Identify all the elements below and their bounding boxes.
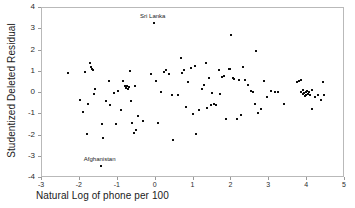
y-axis-tick-label: -3 [21,151,35,160]
data-point [93,93,95,95]
data-point [82,111,84,113]
data-point [198,109,200,111]
y-axis-tick-mark [38,28,41,29]
y-axis-tick-label: -2 [21,130,35,139]
data-point [240,114,242,116]
data-point [187,81,189,83]
y-axis-tick-label: -4 [21,172,35,181]
data-point [133,132,135,134]
data-point [201,88,203,90]
data-point [109,104,111,106]
x-axis-tick-mark [306,177,307,180]
x-axis-tick-label: 3 [261,181,275,188]
y-axis-tick-mark [38,92,41,93]
data-point [129,70,131,72]
data-point [89,62,91,64]
data-point [122,80,124,82]
y-axis-label-text: Studentized Deleted Residual [6,23,17,158]
data-point [165,69,167,71]
y-axis-tick-label: 4 [21,2,35,11]
data-point [180,57,182,59]
data-point [86,133,88,135]
data-point [79,99,81,101]
data-point [219,93,221,95]
x-axis-tick-label: -3 [34,181,48,188]
data-point [137,115,139,117]
y-axis-tick-label: 0 [21,87,35,96]
data-point [172,139,174,141]
data-point [225,118,227,120]
data-point [244,79,246,81]
data-point [157,122,159,124]
data-point [120,109,122,111]
data-point [218,69,220,71]
data-point [277,91,279,93]
data-point [168,73,170,75]
data-point [270,90,272,92]
x-axis-tick-mark [41,177,42,180]
data-point [115,123,117,125]
data-point [323,94,325,96]
data-point [128,86,130,88]
y-axis-tick-mark [38,50,41,51]
data-point [320,99,322,101]
x-axis-tick-label: -2 [72,181,86,188]
data-point [311,89,313,91]
data-point [130,100,132,102]
y-axis-tick-mark [38,71,41,72]
data-point [208,77,210,79]
data-point [266,96,268,98]
x-axis-tick-label: -1 [110,181,124,188]
y-axis-tick-label: 3 [21,23,35,32]
data-point [177,94,179,96]
data-point [254,103,256,105]
data-point [160,91,162,93]
y-axis-tick-mark [38,156,41,157]
x-axis-tick-mark [155,177,156,180]
point-annotation: Sri Lanka [140,13,165,19]
data-point [242,66,244,68]
data-point [142,120,144,122]
data-point [223,75,225,77]
data-point [311,108,313,110]
x-axis-tick-label: 2 [223,181,237,188]
x-axis-label: Natural Log of phone per 100 [36,190,169,201]
data-point [153,22,155,24]
data-point [263,80,265,82]
data-point [84,71,86,73]
data-point [150,73,152,75]
data-point [203,84,205,86]
x-axis-tick-mark [117,177,118,180]
scatter-plot-figure: Studentized Deleted Residual Natural Log… [0,0,355,208]
data-point [117,90,119,92]
data-point [134,85,136,87]
x-axis-tick-label: 0 [148,181,162,188]
data-point [131,122,133,124]
point-annotation: Afghanistan [84,156,116,162]
data-point [100,165,102,167]
x-axis-tick-label: 4 [299,181,313,188]
y-axis-tick-mark [38,113,41,114]
data-point [108,80,110,82]
data-point [163,71,165,73]
data-point [127,88,129,90]
data-point [67,72,69,74]
data-point [260,108,262,110]
x-axis-tick-mark [193,177,194,180]
x-axis-tick-mark [79,177,80,180]
data-point [183,69,185,71]
data-point [236,118,238,120]
data-point [190,67,192,69]
y-axis-tick-label: 2 [21,45,35,54]
data-point [206,107,208,109]
data-point [255,50,257,52]
data-point [94,88,96,90]
data-point [215,104,217,106]
data-point [102,137,104,139]
data-point [135,129,137,131]
y-axis-tick-label: -1 [21,108,35,117]
data-point [211,92,213,94]
y-axis-tick-mark [38,7,41,8]
data-point [274,91,276,93]
data-point [300,79,302,81]
